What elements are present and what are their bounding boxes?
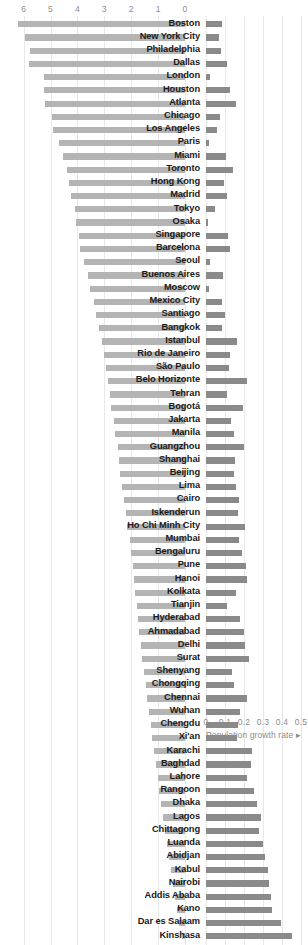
- bar-right: [206, 193, 227, 199]
- city-label: Jakarta: [168, 414, 200, 424]
- bar-right: [206, 259, 210, 265]
- chart-row: Dar es Salaam: [0, 917, 306, 930]
- bar-right: [206, 669, 232, 675]
- city-label: Chongqing: [152, 678, 200, 688]
- bar-right: [206, 590, 236, 596]
- bar-right: [206, 127, 217, 133]
- chart-row: Cairo: [0, 494, 306, 507]
- city-label: Cairo: [177, 493, 200, 503]
- chart-row: Philadelphia: [0, 44, 306, 57]
- chart-row: Hanoi: [0, 573, 306, 586]
- city-label: Chennai: [164, 692, 200, 702]
- city-label: Shenyang: [156, 665, 200, 675]
- city-label: Nairobi: [169, 877, 200, 887]
- chart-row: Buenos Aires: [0, 269, 306, 282]
- chart-row: Addis Ababa: [0, 890, 306, 903]
- chart-row: Bangkok: [0, 322, 306, 335]
- chart-row: Nairobi: [0, 877, 306, 890]
- bar-left: [75, 206, 185, 212]
- bar-right: [206, 378, 247, 384]
- bar-right: [206, 286, 209, 292]
- left-axis-tick-label: 6: [21, 4, 26, 14]
- bar-right: [206, 854, 265, 860]
- city-label: Houston: [163, 84, 200, 94]
- bar-right: [206, 761, 251, 767]
- city-label: Barcelona: [156, 242, 200, 252]
- city-label: Bangkok: [161, 322, 200, 332]
- chart-row: Kabul: [0, 864, 306, 877]
- city-label: Lahore: [170, 771, 200, 781]
- city-label: Pune: [178, 559, 200, 569]
- chart-row: Bogotá: [0, 401, 306, 414]
- bar-right: [206, 642, 245, 648]
- city-label: Beijing: [170, 467, 200, 477]
- city-label: Chicago: [164, 110, 200, 120]
- bar-right: [206, 418, 231, 424]
- bar-right: [206, 48, 221, 54]
- city-label: Shanghai: [159, 454, 200, 464]
- bar-right: [206, 352, 230, 358]
- chart-row: Belo Horizonte: [0, 375, 306, 388]
- chart-rows: BostonNew York CityPhiladelphiaDallasLon…: [0, 18, 306, 943]
- bar-right: [206, 814, 261, 820]
- bar-right: [206, 497, 239, 503]
- chart-row: Mumbai: [0, 534, 306, 547]
- bar-right: [206, 167, 233, 173]
- chart-row: Dallas: [0, 58, 306, 71]
- chart-row: Istanbul: [0, 335, 306, 348]
- bar-right: [206, 524, 245, 530]
- chart-row: Lahore: [0, 771, 306, 784]
- city-label: Abidjan: [167, 850, 200, 860]
- bar-right: [206, 709, 240, 715]
- city-label: Delhi: [178, 639, 200, 649]
- bar-right: [206, 299, 222, 305]
- chart-row: Abidjan: [0, 851, 306, 864]
- bar-right: [206, 656, 249, 662]
- chart-row: Shanghai: [0, 454, 306, 467]
- bar-right: [206, 180, 224, 186]
- left-axis-tick-label: 4: [75, 4, 80, 14]
- right-axis-tick-label: 0.1: [219, 717, 231, 727]
- city-label: Madrid: [170, 189, 200, 199]
- chart-row: London: [0, 71, 306, 84]
- chart-row: Tokyo: [0, 203, 306, 216]
- chart-row: São Paulo: [0, 362, 306, 375]
- bar-right: [206, 114, 220, 120]
- chart-row: Kinshasa: [0, 930, 306, 943]
- city-label: Rio de Janeiro: [137, 348, 200, 358]
- bar-right: [206, 325, 222, 331]
- city-label: Los Angeles: [146, 123, 200, 133]
- bar-right: [206, 338, 237, 344]
- bar-left: [63, 153, 185, 159]
- city-label: Hyderabad: [153, 612, 200, 622]
- chart-row: Surat: [0, 653, 306, 666]
- bar-right: [206, 537, 239, 543]
- city-label: Wuhan: [170, 705, 200, 715]
- left-axis-ticks: 6543210: [0, 0, 306, 20]
- city-label: Kinshasa: [159, 930, 200, 940]
- city-label: Hong Kong: [151, 176, 200, 186]
- bar-right: [206, 695, 247, 701]
- bar-right: [206, 61, 227, 67]
- city-label: Ho Chi Minh City: [127, 520, 200, 530]
- city-label: Lagos: [173, 811, 200, 821]
- bar-right: [206, 629, 244, 635]
- right-axis-tick-label: 0.3: [257, 717, 269, 727]
- city-label: Philadelphia: [146, 44, 200, 54]
- bar-right: [206, 841, 263, 847]
- city-label: Moscow: [164, 282, 200, 292]
- city-label: Singapore: [155, 229, 200, 239]
- chart-row: Luanda: [0, 838, 306, 851]
- bar-right: [206, 365, 229, 371]
- bar-right: [206, 444, 244, 450]
- bar-right: [206, 920, 281, 926]
- chart-row: Santiago: [0, 309, 306, 322]
- bar-right: [206, 471, 234, 477]
- bar-right: [206, 576, 247, 582]
- bar-right: [206, 510, 238, 516]
- chart-row: Lagos: [0, 811, 306, 824]
- chart-row: Barcelona: [0, 243, 306, 256]
- bar-right: [206, 101, 236, 107]
- bar-left: [59, 140, 185, 146]
- bar-left: [71, 193, 185, 199]
